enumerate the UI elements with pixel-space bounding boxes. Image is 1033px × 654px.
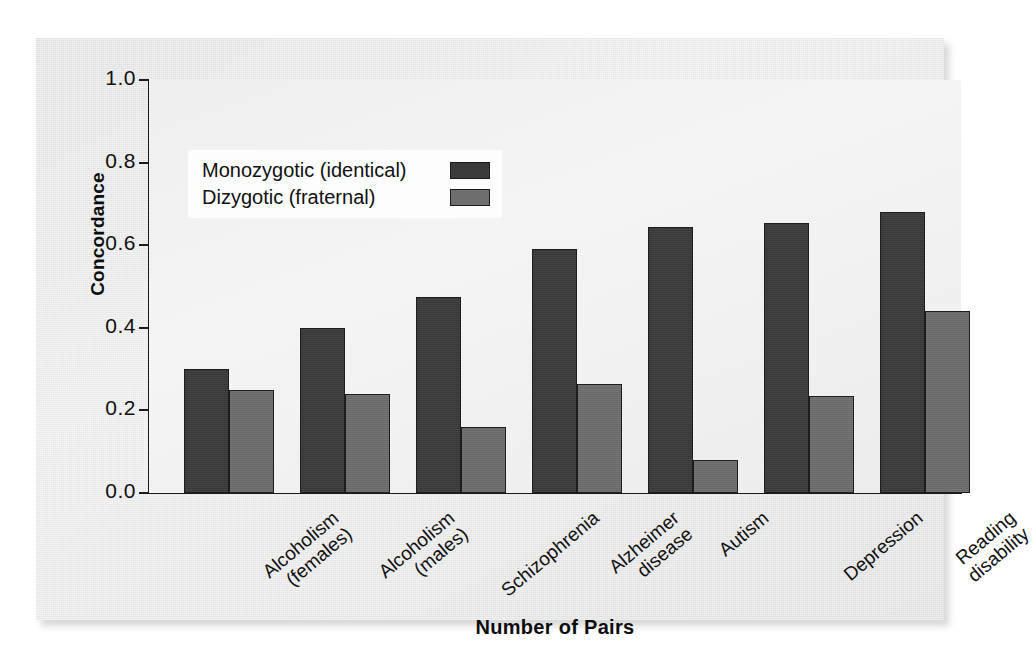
y-axis-tick-label: 0.2: [82, 396, 136, 420]
bar-dizygotic: [345, 394, 390, 493]
y-axis-tick: [139, 244, 149, 246]
legend-swatch-dz: [450, 189, 490, 206]
x-axis-category-labels: Alcoholism (females)Alcoholism (males)Sc…: [149, 493, 961, 623]
y-axis-tick: [139, 492, 149, 494]
x-axis-category-label: Schizophrenia: [497, 507, 603, 601]
x-axis-title: Number of Pairs: [149, 616, 961, 639]
bar-texture: [578, 385, 621, 492]
bar-texture: [417, 298, 460, 492]
y-axis-tick-labels: 0.00.20.40.60.81.0: [74, 38, 136, 654]
x-axis-category-label: Alzheimer disease: [605, 507, 697, 594]
bar-texture: [649, 228, 692, 492]
bar-monozygotic: [764, 223, 809, 494]
bar-monozygotic: [184, 369, 229, 493]
figure-panel: 0.00.20.40.60.81.0 Concordance Alcoholis…: [36, 38, 944, 620]
bar-dizygotic: [229, 390, 274, 493]
bar-texture: [881, 213, 924, 492]
legend-swatch-mz: [450, 162, 490, 179]
bar-texture: [462, 428, 505, 492]
x-axis-category-label: Depression: [839, 507, 926, 585]
bar-texture: [810, 397, 853, 492]
bar-monozygotic: [648, 227, 693, 493]
bar-dizygotic: [809, 396, 854, 493]
bar-monozygotic: [532, 249, 577, 493]
legend-item: Monozygotic (identical): [202, 157, 490, 184]
plot-area: [149, 80, 961, 493]
legend-item: Dizygotic (fraternal): [202, 184, 490, 211]
y-axis-tick-label: 0.0: [82, 479, 136, 503]
bar-monozygotic: [416, 297, 461, 493]
bar-monozygotic: [300, 328, 345, 493]
bar-texture: [346, 395, 389, 492]
x-axis-category-label: Reading disability: [950, 507, 1033, 586]
bar-dizygotic: [925, 311, 970, 493]
bar-texture: [185, 370, 228, 492]
y-axis-tick-label: 1.0: [82, 66, 136, 90]
bar-dizygotic: [693, 460, 738, 493]
bar-monozygotic: [880, 212, 925, 493]
bar-texture: [926, 312, 969, 492]
x-axis-category-label: Autism: [715, 507, 773, 561]
x-axis-category-label: Alcoholism (females): [258, 507, 356, 599]
y-axis-tick: [139, 79, 149, 81]
bar-texture: [765, 224, 808, 493]
legend-item-label: Monozygotic (identical): [202, 159, 442, 182]
bar-texture: [533, 250, 576, 492]
chart-legend: Monozygotic (identical)Dizygotic (frater…: [188, 150, 502, 218]
legend-item-label: Dizygotic (fraternal): [202, 186, 442, 209]
bar-dizygotic: [577, 384, 622, 493]
y-axis-tick: [139, 162, 149, 164]
bar-texture: [230, 391, 273, 492]
y-axis-tick: [139, 327, 149, 329]
bar-texture: [301, 329, 344, 492]
y-axis-tick: [139, 409, 149, 411]
y-axis-title: Concordance: [87, 134, 109, 334]
x-axis-category-label: Alcoholism (males): [374, 507, 472, 599]
bar-texture: [694, 461, 737, 492]
bar-dizygotic: [461, 427, 506, 493]
